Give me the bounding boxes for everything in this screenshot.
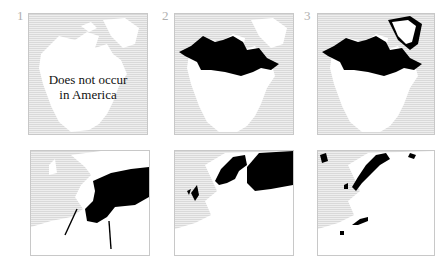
map-panel-1-north-america: Does not occur in America — [28, 13, 148, 135]
europe-range-icon — [318, 151, 434, 255]
north-america-range-icon — [175, 14, 293, 134]
map-panel-3-north-america — [317, 13, 435, 135]
note-line-1: Does not occur — [29, 72, 147, 87]
panel-1-note: Does not occur in America — [29, 72, 147, 102]
panel-number-3: 3 — [304, 8, 311, 24]
map-panel-5-europe — [174, 150, 294, 256]
panel-number-1: 1 — [17, 8, 24, 24]
map-panel-4-europe — [30, 150, 150, 256]
europe-range-icon — [175, 151, 293, 255]
map-panel-6-europe — [317, 150, 435, 256]
map-panel-2-north-america — [174, 13, 294, 135]
europe-range-icon — [31, 151, 149, 255]
note-line-2: in America — [29, 87, 147, 102]
north-america-range-icon — [318, 14, 434, 134]
panel-number-2: 2 — [162, 8, 169, 24]
range-map-plate: 1 Does not occur in America 2 3 — [0, 0, 446, 268]
